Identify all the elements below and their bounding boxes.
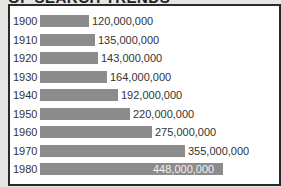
category-label: 1980 <box>13 162 37 176</box>
bar <box>40 89 118 101</box>
category-label: 1940 <box>13 88 37 102</box>
value-label: 355,000,000 <box>188 144 249 158</box>
bar <box>40 52 98 64</box>
bar <box>40 145 185 157</box>
bar <box>40 126 152 138</box>
chart-frame: 1900120,000,0001910135,000,0001920143,00… <box>8 4 281 186</box>
bar <box>40 108 130 120</box>
bar <box>40 34 95 46</box>
bar <box>40 15 89 27</box>
value-label: 275,000,000 <box>155 125 216 139</box>
bar <box>40 71 107 83</box>
category-label: 1930 <box>13 70 37 84</box>
category-label: 1920 <box>13 51 37 65</box>
value-label: 135,000,000 <box>98 33 159 47</box>
category-label: 1900 <box>13 14 37 28</box>
category-label: 1970 <box>13 144 37 158</box>
category-label: 1960 <box>13 125 37 139</box>
value-label: 164,000,000 <box>110 70 171 84</box>
value-label: 220,000,000 <box>133 107 194 121</box>
value-label: 448,000,000 <box>153 162 214 176</box>
category-label: 1910 <box>13 33 37 47</box>
category-label: 1950 <box>13 107 37 121</box>
value-label: 143,000,000 <box>101 51 162 65</box>
value-label: 120,000,000 <box>92 14 153 28</box>
value-label: 192,000,000 <box>121 88 182 102</box>
